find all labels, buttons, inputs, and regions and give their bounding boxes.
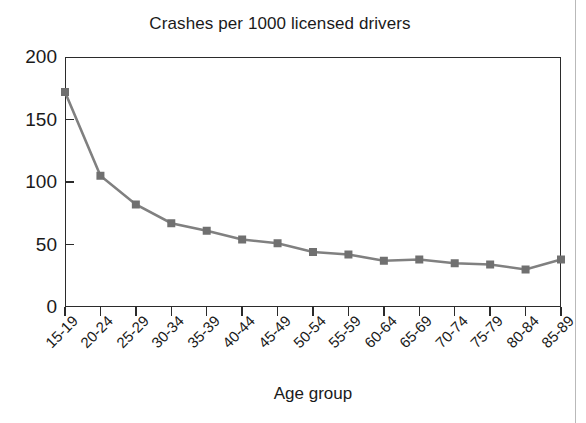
x-axis-tick-label: 20-24 (77, 312, 116, 351)
x-axis-tick-label: 40-44 (219, 312, 258, 351)
y-axis-tick (65, 181, 74, 183)
x-axis-tick-label: 85-89 (538, 312, 577, 351)
x-axis-tick-label: 50-54 (290, 312, 329, 351)
y-axis-tick-label: 200 (0, 46, 57, 68)
y-axis-tick-label: 150 (0, 109, 57, 131)
x-axis-tick-label: 25-29 (113, 312, 152, 351)
x-axis-tick-label: 75-79 (467, 312, 506, 351)
x-axis-tick-label: 30-34 (148, 312, 187, 351)
y-axis-tick-labels: 050100150200 (0, 0, 57, 423)
chart-title: Crashes per 1000 licensed drivers (0, 14, 560, 34)
plot-area-frame (65, 57, 561, 307)
y-axis-tick-label: 100 (0, 171, 57, 193)
x-axis-tick-label: 60-64 (361, 312, 400, 351)
y-axis-tick-label: 0 (0, 296, 57, 318)
page-edge-rule (575, 0, 576, 423)
x-axis-title: Age group (65, 384, 561, 404)
x-axis-tick-label: 70-74 (432, 312, 471, 351)
chart-page: Crashes per 1000 licensed drivers 050100… (0, 0, 586, 423)
y-axis-tick (65, 119, 74, 121)
x-axis-tick-label: 55-59 (325, 312, 364, 351)
x-axis-tick-label: 35-39 (184, 312, 223, 351)
x-axis-tick-label: 45-49 (254, 312, 293, 351)
x-axis-tick-label: 65-69 (396, 312, 435, 351)
y-axis-tick-label: 50 (0, 234, 57, 256)
y-axis-tick (65, 244, 74, 246)
x-axis-tick-label: 80-84 (502, 312, 541, 351)
